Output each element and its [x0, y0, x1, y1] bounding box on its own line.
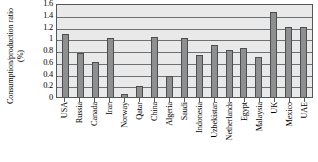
bar-slot: [88, 5, 103, 97]
x-tick-label: Saudi: [180, 102, 188, 120]
x-axis-tick-labels: USARussiaCanadaIranNorwayQatarChinaAlger…: [56, 102, 313, 160]
bar: [181, 38, 188, 97]
bar-slot: [103, 5, 118, 97]
bar: [151, 37, 158, 97]
bar-slot: [132, 5, 147, 97]
x-label-slot: Russia: [72, 102, 87, 160]
y-tick-label: 1.2: [28, 23, 53, 31]
bar: [121, 94, 128, 97]
bar-slot: [58, 5, 73, 97]
y-tick-label: 1.6: [28, 0, 53, 8]
bar-slot: [207, 5, 222, 97]
x-tick-label: China: [150, 102, 158, 121]
x-tick-label: Iran: [105, 102, 113, 115]
x-tick-label: USA: [60, 102, 68, 118]
bars-layer: [57, 5, 312, 97]
bar: [226, 50, 233, 97]
x-tick-label: UAE: [300, 102, 308, 119]
bar-slot: [192, 5, 207, 97]
bar: [270, 12, 277, 97]
x-label-slot: Qatar: [132, 102, 147, 160]
x-label-slot: Iran: [102, 102, 117, 160]
bar-slot: [296, 5, 311, 97]
x-tick-label: Malaysia: [255, 102, 263, 131]
x-label-slot: Uzbekistan: [207, 102, 222, 160]
bar-slot: [73, 5, 88, 97]
x-label-slot: Netherlands: [222, 102, 237, 160]
consumption-production-ratio-bar-chart: Consumption/production ratio (%) 00.20.4…: [0, 0, 318, 162]
x-tick-label: Mexico: [285, 102, 293, 126]
x-label-slot: Malaysia: [252, 102, 267, 160]
x-label-slot: Algeria: [162, 102, 177, 160]
x-label-slot: China: [147, 102, 162, 160]
x-tick-label: Qatar: [135, 102, 143, 120]
bar: [62, 34, 69, 97]
bar-slot: [147, 5, 162, 97]
bar-slot: [118, 5, 133, 97]
x-tick-label: Uzbekistan: [210, 102, 218, 138]
bar-slot: [251, 5, 266, 97]
bar-slot: [266, 5, 281, 97]
x-label-slot: Canada: [87, 102, 102, 160]
y-tick-label: 0.4: [28, 70, 53, 78]
x-tick-label: UK: [270, 102, 278, 114]
x-label-slot: UK: [267, 102, 282, 160]
y-tick-label: 1: [28, 35, 53, 43]
bar: [255, 57, 262, 97]
y-tick-label: 0.6: [28, 59, 53, 67]
bar: [166, 76, 173, 97]
bar: [92, 62, 99, 97]
bar-slot: [177, 5, 192, 97]
x-label-slot: Mexico: [282, 102, 297, 160]
bar: [136, 86, 143, 97]
x-tick-label: Netherlands: [225, 102, 233, 140]
x-label-slot: Indonesia: [192, 102, 207, 160]
bar: [107, 38, 114, 97]
x-label-slot: Norway: [117, 102, 132, 160]
x-label-slot: Egypt: [237, 102, 252, 160]
x-label-slot: USA: [57, 102, 72, 160]
bar: [211, 45, 218, 97]
y-axis-tick-labels: 00.20.40.60.811.21.41.6: [28, 4, 53, 98]
x-label-slot: UAE: [297, 102, 312, 160]
bar: [196, 55, 203, 97]
bar-slot: [237, 5, 252, 97]
x-tick-label: Algeria: [165, 102, 173, 126]
x-tick-label: Norway: [120, 102, 128, 128]
x-tick-label: Indonesia: [195, 102, 203, 133]
bar-slot: [281, 5, 296, 97]
bar-slot: [162, 5, 177, 97]
x-tick-label: Canada: [90, 102, 98, 126]
y-tick-label: 0: [28, 94, 53, 102]
y-tick-label: 0.8: [28, 47, 53, 55]
x-tick-label: Russia: [75, 102, 83, 123]
y-tick-label: 0.2: [28, 82, 53, 90]
y-tick-label: 1.4: [28, 12, 53, 20]
bar: [300, 27, 307, 98]
plot-area: [56, 4, 313, 98]
x-tick-label: Egypt: [240, 102, 248, 121]
bar: [285, 27, 292, 98]
x-label-slot: Saudi: [177, 102, 192, 160]
bar: [77, 53, 84, 97]
bar-slot: [222, 5, 237, 97]
bar: [240, 48, 247, 97]
